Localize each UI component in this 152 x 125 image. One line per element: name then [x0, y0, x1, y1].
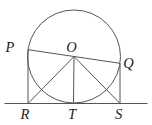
label-T: T	[68, 106, 77, 122]
label-S: S	[115, 106, 123, 122]
geometry-figure: POQRTS	[0, 0, 152, 125]
geometry-diagram-svg: POQRTS	[0, 0, 152, 125]
label-P: P	[5, 39, 15, 55]
segment-OT	[74, 57, 75, 104]
label-O: O	[66, 39, 77, 55]
label-Q: Q	[123, 55, 134, 71]
label-R: R	[20, 106, 30, 122]
